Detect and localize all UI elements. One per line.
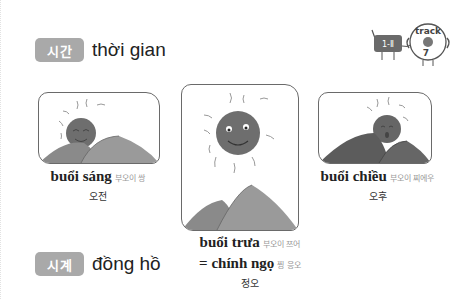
korean-word: 오후 xyxy=(305,188,450,206)
section-title: đồng hồ xyxy=(92,253,161,275)
caption-afternoon: buổi chiều부오이 찌에우 오후 xyxy=(305,167,450,206)
korean-word: 정오 xyxy=(175,275,325,293)
page-edge xyxy=(0,0,4,299)
sun-rising-icon xyxy=(39,93,159,163)
illustration-morning xyxy=(38,92,160,164)
caption-morning: buổi sáng부오이 쌍 오전 xyxy=(38,167,158,206)
section-heading-clock: 시계 đồng hồ xyxy=(35,252,161,276)
section-title: thời gian xyxy=(92,39,166,61)
illustration-afternoon xyxy=(318,92,432,164)
section-badge: 시간 xyxy=(35,38,84,62)
sun-setting-icon xyxy=(319,93,431,163)
pronunciation: 부오이 쯔어 xyxy=(263,240,301,249)
vn-word-alt: = chính ngọ xyxy=(199,255,274,271)
vn-word: buổi trưa xyxy=(200,234,260,250)
korean-word: 오전 xyxy=(38,188,158,206)
illustration-noon xyxy=(181,84,299,231)
pronunciation: 부오이 쌍 xyxy=(115,174,146,183)
track-cd-icon[interactable]: 1-Ⅱ track 7 xyxy=(368,18,458,68)
sun-high-icon xyxy=(182,85,298,230)
svg-text:1-Ⅱ: 1-Ⅱ xyxy=(382,40,394,49)
pronunciation-alt: 찡 응오 xyxy=(277,261,301,270)
section-heading-time: 시간 thời gian xyxy=(35,38,166,62)
svg-text:7: 7 xyxy=(423,48,429,58)
pronunciation: 부오이 찌에우 xyxy=(390,174,435,183)
section-badge: 시계 xyxy=(35,252,84,276)
vn-word: buổi chiều xyxy=(321,168,387,184)
caption-noon: buổi trưa부오이 쯔어 = chính ngọ찡 응오 정오 xyxy=(175,233,325,293)
vn-word: buổi sáng xyxy=(51,168,112,184)
svg-text:track: track xyxy=(415,26,442,36)
